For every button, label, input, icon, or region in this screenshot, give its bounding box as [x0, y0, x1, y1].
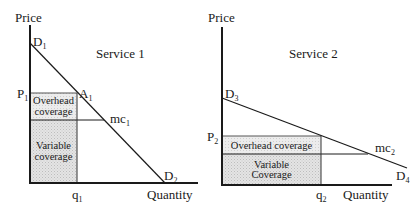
service-1-panel: Price D1 Service 1 P1 A1 mc1 D2 q1 Quant…	[15, 10, 198, 204]
price-label-1: P1	[17, 86, 28, 103]
demand-top-label-1: D1	[33, 34, 46, 51]
demand-bottom-label-1: D2	[164, 168, 177, 185]
price-label-2: P2	[207, 129, 218, 146]
quantity-label-1: q1	[72, 187, 83, 204]
mc-label-2: mc2	[375, 140, 395, 157]
demand-bottom-label-2: D4	[396, 168, 409, 185]
overhead-label-1b: coverage	[35, 106, 73, 117]
variable-label-1a: Variable	[36, 140, 71, 151]
quantity-label-2: q2	[316, 187, 327, 204]
panel-title-1: Service 1	[96, 46, 145, 61]
mc-label-1: mc1	[110, 111, 130, 128]
x-axis-label-2: Quantity	[343, 187, 389, 202]
panel-title-2: Service 2	[289, 46, 338, 61]
diagram-canvas: Price D1 Service 1 P1 A1 mc1 D2 q1 Quant…	[0, 0, 419, 213]
x-axis-label-1: Quantity	[147, 187, 193, 202]
point-label-1: A1	[79, 86, 92, 103]
y-axis-label-2: Price	[208, 10, 235, 25]
overhead-label-1a: Overhead	[33, 95, 75, 106]
variable-label-2b: Coverage	[251, 169, 292, 180]
overhead-label-2: Overhead coverage	[231, 140, 313, 151]
y-axis-label-1: Price	[15, 10, 42, 25]
service-2-panel: Price Service 2 D3 P2 mc2 D4 q2 Quantity…	[207, 10, 409, 204]
demand-top-label-2: D3	[225, 86, 238, 103]
variable-label-1b: coverage	[35, 151, 73, 162]
